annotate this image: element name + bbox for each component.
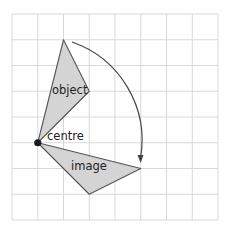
object-label: object (52, 83, 88, 97)
image-label: image (71, 159, 107, 173)
arrowhead-icon (138, 155, 144, 163)
grid (12, 14, 218, 220)
centre-label: centre (47, 129, 84, 143)
centre-point (34, 139, 41, 146)
rotation-diagram: object centre image (0, 0, 230, 228)
